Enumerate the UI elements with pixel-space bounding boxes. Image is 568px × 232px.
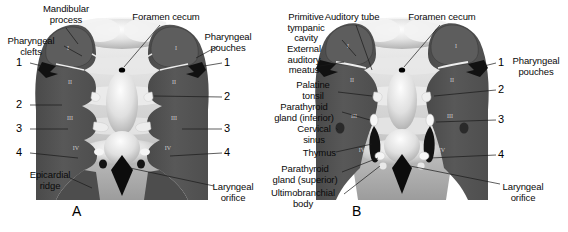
- number-pouch-2-b: 2: [498, 84, 504, 95]
- svg-text:I: I: [455, 43, 457, 49]
- label-auditory-tube: Auditory tube: [314, 12, 390, 23]
- number-pouch-3-a: 3: [224, 123, 230, 134]
- svg-text:IV: IV: [359, 147, 366, 153]
- label-foramen-cecum-b: Foramen cecum: [400, 12, 484, 23]
- ultimobranchial-right-a: [137, 160, 145, 169]
- label-parathyroid-gland-superior: Parathyroid gland (superior): [266, 164, 344, 185]
- median-tongue-swelling-a: [106, 71, 138, 135]
- parathyroid-superior-right-b: [419, 152, 429, 160]
- label-palatine-tonsil: Palatine tonsil: [286, 80, 340, 101]
- panel-letter-b: B: [352, 203, 361, 219]
- svg-text:II: II: [68, 79, 72, 85]
- number-pouch-3-b: 3: [498, 114, 504, 125]
- number-pouch-1-a: 1: [224, 57, 230, 68]
- parathyroid-inferior-left-b: [370, 114, 378, 126]
- number-pouch-2-a: 2: [224, 91, 230, 102]
- foramen-cecum-dot-b: [399, 67, 405, 72]
- label-laryngeal-orifice-b: Laryngeal orifice: [494, 182, 552, 203]
- median-tongue-swelling-b: [387, 70, 417, 130]
- label-epicardial-ridge: Epicardial ridge: [20, 170, 80, 191]
- ultimobranchial-left-a: [99, 160, 107, 169]
- parathyroid-inferior-right-b: [426, 114, 434, 126]
- label-thymus: Thymus: [276, 148, 336, 159]
- svg-text:III: III: [171, 115, 177, 121]
- label-laryngeal-orifice-a: Laryngeal orifice: [204, 182, 262, 203]
- label-mandibular-process: Mandibular process: [26, 4, 106, 25]
- label-pharyngeal-pouches-b: Pharyngeal pouches: [504, 56, 568, 77]
- svg-text:III: III: [447, 113, 453, 119]
- ultimobranchial-body-left-b: [379, 163, 386, 170]
- number-cleft-1: 1: [16, 57, 22, 68]
- svg-text:I: I: [175, 45, 177, 51]
- svg-text:III: III: [67, 115, 73, 121]
- figure-pharyngeal-arches: I I II II III III IV IV: [0, 0, 568, 232]
- label-foramen-cecum-a: Foramen cecum: [124, 12, 208, 23]
- label-external-auditory-meatus: External auditory meatus: [274, 44, 334, 76]
- svg-text:IV: IV: [439, 147, 446, 153]
- panel-letter-a: A: [72, 203, 81, 219]
- pouch-4-left-a: [94, 149, 104, 156]
- label-pharyngeal-pouches-a: Pharyngeal pouches: [196, 32, 260, 53]
- number-pouch-1-b: 1: [498, 57, 504, 68]
- svg-text:IV: IV: [165, 145, 172, 151]
- cervical-sinus-right-b: [460, 123, 469, 134]
- number-cleft-3: 3: [16, 123, 22, 134]
- label-ultimobranchial-body: Ultimobranchial body: [262, 188, 344, 209]
- svg-text:II: II: [450, 77, 454, 83]
- pouch-4-right-a: [140, 149, 150, 156]
- number-pouch-4-b: 4: [498, 149, 504, 160]
- number-pouch-4-a: 4: [224, 147, 230, 158]
- svg-text:IV: IV: [73, 145, 80, 151]
- label-parathyroid-gland-inferior: Parathyroid gland (inferior): [266, 102, 342, 123]
- svg-text:II: II: [172, 79, 176, 85]
- number-cleft-4: 4: [16, 147, 22, 158]
- number-cleft-2: 2: [16, 99, 22, 110]
- palatine-tonsil-right-b: [422, 92, 431, 102]
- palatine-tonsil-left-b: [373, 92, 382, 102]
- label-cervical-sinus: Cervical sinus: [288, 124, 340, 145]
- foramen-cecum-dot-a: [119, 67, 125, 72]
- svg-text:II: II: [350, 77, 354, 83]
- label-pharyngeal-clefts: Pharyngeal clefts: [0, 36, 62, 57]
